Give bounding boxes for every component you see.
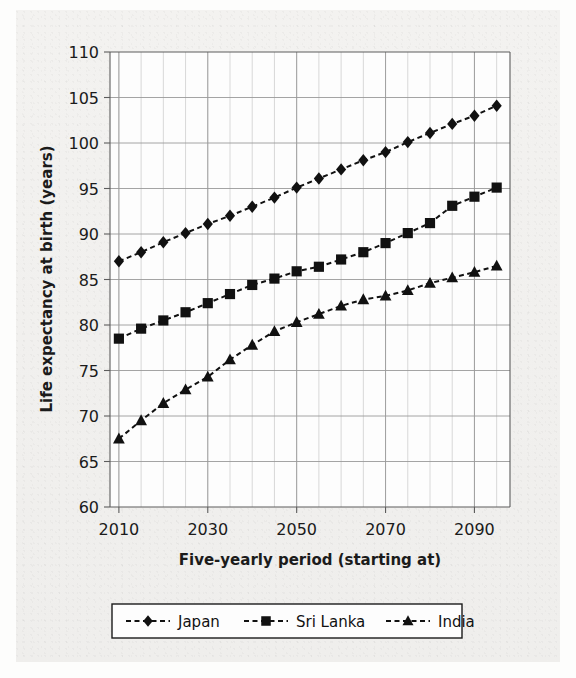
data-point-marker [136, 324, 146, 334]
x-axis-ticks: 20102030205020702090 [99, 507, 495, 539]
x-tick-label: 2010 [99, 520, 140, 539]
data-point-marker [403, 228, 413, 238]
figure-page: 6065707580859095100105110 20102030205020… [0, 0, 576, 678]
x-tick-label: 2070 [365, 520, 406, 539]
y-tick-label: 75 [79, 362, 99, 381]
y-tick-label: 110 [68, 43, 99, 62]
data-point-marker [114, 334, 124, 344]
data-point-marker [225, 289, 235, 299]
chart-figure: 6065707580859095100105110 20102030205020… [22, 14, 554, 658]
data-point-marker [425, 218, 435, 228]
y-tick-label: 105 [68, 89, 99, 108]
y-tick-label: 85 [79, 271, 99, 290]
data-point-marker [380, 238, 390, 248]
data-point-marker [447, 201, 457, 211]
y-tick-label: 100 [68, 134, 99, 153]
y-tick-label: 60 [79, 498, 99, 517]
data-point-marker [180, 307, 190, 317]
data-point-marker [358, 247, 368, 257]
data-point-marker [469, 192, 479, 202]
data-point-marker [292, 266, 302, 276]
legend-label: Sri Lanka [296, 613, 365, 631]
data-point-marker [492, 183, 502, 193]
data-point-marker [203, 298, 213, 308]
life-expectancy-line-chart: 6065707580859095100105110 20102030205020… [22, 14, 554, 658]
y-axis-ticks: 6065707580859095100105110 [68, 43, 110, 517]
data-point-marker [336, 254, 346, 264]
data-point-marker [314, 262, 324, 272]
data-point-marker [261, 616, 271, 626]
data-point-marker [158, 315, 168, 325]
y-axis-title: Life expectancy at birth (years) [38, 145, 56, 412]
data-point-marker [269, 274, 279, 284]
legend-label: India [438, 613, 475, 631]
x-tick-label: 2050 [276, 520, 317, 539]
y-tick-label: 65 [79, 453, 99, 472]
legend-label: Japan [177, 613, 220, 631]
y-tick-label: 90 [79, 225, 99, 244]
chart-legend: JapanSri LankaIndia [112, 604, 475, 638]
x-tick-label: 2090 [454, 520, 495, 539]
y-tick-label: 80 [79, 316, 99, 335]
y-tick-label: 95 [79, 180, 99, 199]
x-tick-label: 2030 [187, 520, 228, 539]
data-point-marker [247, 280, 257, 290]
y-tick-label: 70 [79, 407, 99, 426]
x-axis-title: Five-yearly period (starting at) [179, 551, 441, 569]
